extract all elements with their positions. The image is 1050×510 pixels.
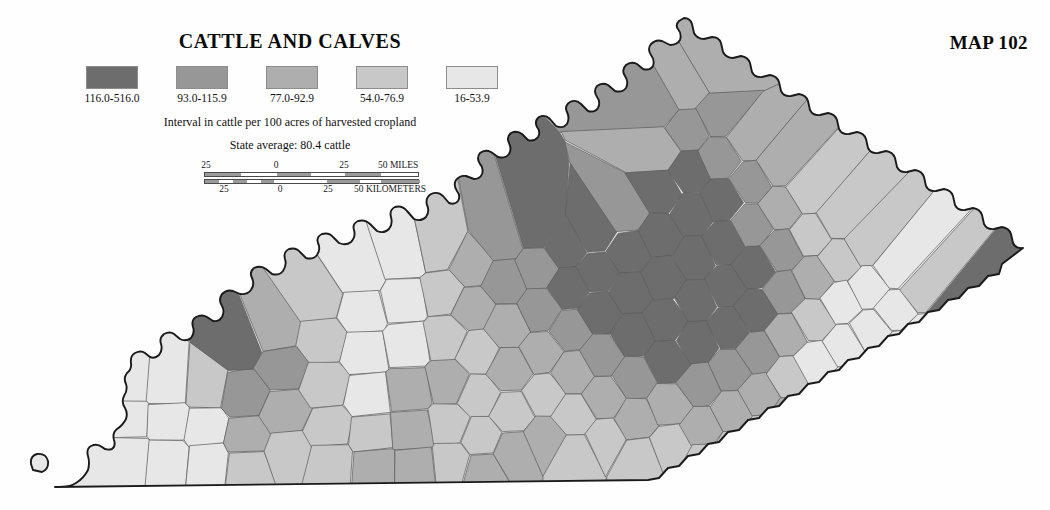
scale-seg-k4: [381, 180, 420, 183]
scale-miles-tick-0: 25: [201, 160, 211, 170]
legend-swatch-4: [446, 66, 498, 89]
scale-km-tick-1: 0: [278, 184, 283, 194]
county-area: [0, 0, 155, 402]
scale-bar: 25 0 25 50 MILES 25 0 25 50 KILOMETERS: [196, 160, 431, 196]
county-area: [800, 425, 847, 510]
county-area: [143, 440, 189, 510]
county-area: [715, 431, 762, 510]
scale-miles-tick-1: 0: [274, 160, 279, 170]
legend-item-1: 93.0-115.9: [160, 66, 244, 104]
legend-item-4: 16-53.9: [430, 66, 514, 104]
scale-seg-k1: [233, 180, 247, 183]
legend-label-4: 16-53.9: [430, 92, 514, 104]
county-area: [146, 282, 189, 404]
county-area: [879, 374, 922, 416]
county-area: [906, 398, 1008, 510]
scale-seg-k0: [205, 180, 219, 183]
county-area: [183, 443, 228, 510]
county-area: [147, 403, 190, 440]
scale-bar-miles-labels: 25 0 25 50 MILES: [196, 160, 431, 172]
legend: 116.0-516.0 93.0-115.9 77.0-92.9 54.0-76…: [70, 66, 515, 112]
county-area: [350, 449, 395, 510]
map-number-label: MAP 102: [950, 32, 1028, 54]
county-area: [841, 431, 928, 510]
scale-seg-m0: [205, 173, 241, 176]
map-page: CATTLE AND CALVES MAP 102 116.0-516.0 93…: [0, 0, 1050, 510]
scale-bar-km-labels: 25 0 25 50 KILOMETERS: [196, 184, 431, 196]
county-area: [0, 437, 150, 510]
legend-label-1: 93.0-115.9: [160, 92, 244, 104]
scale-seg-m1: [277, 173, 311, 176]
county-area: [395, 447, 439, 510]
legend-swatch-1: [176, 66, 228, 89]
legend-label-2: 77.0-92.9: [250, 92, 334, 104]
county-area: [882, 415, 974, 510]
county-area: [827, 408, 867, 460]
legend-label-0: 116.0-516.0: [70, 92, 154, 104]
scale-miles-tick-3: 50 MILES: [378, 160, 418, 170]
scale-miles-tick-2: 25: [339, 160, 349, 170]
scale-seg-k3: [327, 180, 360, 183]
legend-swatch-2: [266, 66, 318, 89]
county-area: [957, 361, 1050, 510]
county-area: [299, 362, 352, 408]
legend-swatch-0: [86, 66, 138, 89]
county-area: [928, 336, 970, 380]
county-area: [349, 414, 394, 452]
scale-km-tick-3: 50 KILOMETERS: [354, 184, 426, 194]
county-area: [340, 331, 389, 375]
legend-item-0: 116.0-516.0: [70, 66, 154, 104]
legend-swatch-3: [356, 66, 408, 89]
county-area: [854, 392, 895, 431]
county-area: [184, 408, 229, 448]
state-average-label: State average: 80.4 cattle: [90, 138, 490, 153]
county-area: [391, 410, 436, 450]
county-area: [932, 379, 1050, 510]
scale-seg-m2: [345, 173, 381, 176]
scale-bar-miles-track: [204, 172, 419, 177]
county-area: [761, 436, 828, 510]
county-area: [337, 290, 388, 333]
county-area: [386, 368, 432, 412]
county-area: [903, 356, 947, 399]
scale-seg-k2: [261, 180, 274, 183]
scale-km-tick-0: 25: [219, 184, 229, 194]
page-title: CATTLE AND CALVES: [120, 30, 460, 53]
county-area: [343, 372, 391, 417]
legend-label-3: 54.0-76.9: [340, 92, 424, 104]
legend-caption: Interval in cattle per 100 acres of harv…: [90, 115, 490, 130]
county-area: [978, 285, 1050, 438]
county-area: [383, 321, 430, 368]
legend-item-3: 54.0-76.9: [340, 66, 424, 104]
county-area: [380, 278, 427, 323]
legend-item-2: 77.0-92.9: [250, 66, 334, 104]
scale-km-tick-2: 25: [323, 184, 333, 194]
